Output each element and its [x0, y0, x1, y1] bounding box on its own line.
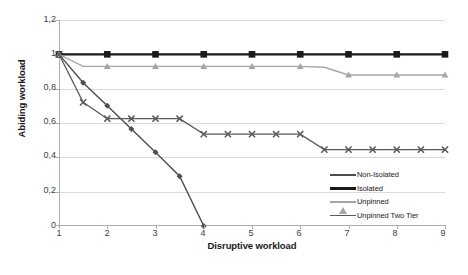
legend-label: Unpinned [356, 197, 389, 206]
y-tick-label: 0,8 [10, 82, 56, 92]
x-tick-mark [349, 225, 350, 229]
chart-legend: Non-Isolated Isolated Unpinned Unpinned … [330, 168, 466, 222]
chart-container: Abiding workload Disruptive workload 1,2… [0, 0, 468, 275]
x-tick-mark [252, 225, 253, 229]
legend-marker-line-icon [330, 210, 356, 221]
data-point-marker [249, 51, 256, 58]
legend-marker-diamond-icon [330, 169, 356, 180]
data-point-marker [200, 51, 207, 58]
legend-item-non-isolated[interactable]: Non-Isolated [330, 168, 466, 182]
x-tick-mark [300, 225, 301, 229]
data-point-marker [393, 51, 400, 58]
y-tick-label: 1,2 [10, 14, 56, 24]
data-point-marker [345, 51, 352, 58]
legend-label: Isolated [356, 184, 383, 193]
x-tick-label: 5 [239, 228, 263, 238]
y-tick-label: 0,6 [10, 116, 56, 126]
series-line [59, 54, 204, 226]
x-tick-label: 8 [383, 228, 407, 238]
x-tick-mark [59, 225, 60, 229]
legend-item-unpinned[interactable]: Unpinned [330, 195, 466, 209]
x-tick-label: 1 [47, 228, 71, 238]
series-isolated [56, 51, 449, 58]
data-point-marker [104, 51, 111, 58]
x-tick-label: 2 [95, 228, 119, 238]
x-tick-label: 4 [191, 228, 215, 238]
data-point-marker [297, 51, 304, 58]
x-tick-label: 9 [431, 228, 455, 238]
x-tick-mark [397, 225, 398, 229]
x-tick-mark [107, 225, 108, 229]
legend-item-isolated[interactable]: Isolated [330, 182, 466, 196]
y-tick-label: 1 [10, 48, 56, 58]
legend-marker-triangle-icon [330, 196, 356, 207]
y-tick-label: 0,2 [10, 185, 56, 195]
x-tick-mark [204, 225, 205, 229]
legend-label: Non-Isolated [356, 170, 399, 179]
data-point-marker [442, 51, 449, 58]
x-tick-label: 6 [287, 228, 311, 238]
x-axis-title: Disruptive workload [59, 240, 445, 251]
series-non-isolated [56, 51, 207, 229]
legend-label: Unpinned Two Tier [356, 211, 419, 220]
x-tick-label: 7 [335, 228, 359, 238]
x-tick-label: 3 [143, 228, 167, 238]
y-tick-label: 0,4 [10, 150, 56, 160]
data-point-marker [152, 51, 159, 58]
legend-item-unpinned-two-tier[interactable]: Unpinned Two Tier [330, 209, 466, 223]
x-tick-mark [156, 225, 157, 229]
legend-marker-square-icon [330, 183, 356, 194]
x-tick-mark [445, 225, 446, 229]
data-point-marker [80, 99, 86, 105]
